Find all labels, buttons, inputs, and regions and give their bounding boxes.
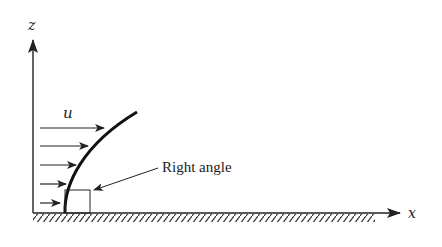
boundary-layer-diagram: z x u Right angle — [0, 0, 442, 247]
x-axis-label: x — [408, 205, 416, 221]
annotation-label: Right angle — [162, 159, 232, 175]
annotation-leader — [94, 168, 158, 190]
ground-hatching — [33, 214, 375, 222]
velocity-label: u — [63, 104, 73, 122]
z-axis-label: z — [27, 17, 36, 33]
right-angle-marker — [65, 190, 90, 213]
velocity-arrows — [40, 128, 104, 203]
velocity-profile-curve — [65, 112, 137, 213]
